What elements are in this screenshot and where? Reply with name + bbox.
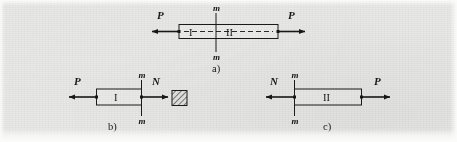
panel-b-section-label-top: m [139, 70, 146, 80]
figure-root: P P I II m m a) P N I m m b) [0, 0, 457, 142]
cross-section-symbol-group [172, 91, 187, 106]
panel-a-part-right-label: II [226, 27, 233, 38]
panel-c-right-force-label: P [374, 75, 381, 87]
panel-b-bar [97, 89, 142, 105]
panel-c-section-label-top: m [292, 70, 299, 80]
panel-c: N P II m m c) [266, 70, 390, 133]
panel-b-part-label: I [114, 92, 118, 103]
panel-c-left-force-label: N [269, 75, 279, 87]
panel-b: P N I m m b) [69, 70, 168, 133]
panel-a-left-force-label: P [157, 9, 164, 21]
panel-b-left-force-label: P [74, 75, 81, 87]
panel-c-section-label-bottom: m [292, 116, 299, 126]
panel-b-caption: b) [108, 121, 117, 133]
hatched-cross-section-icon [172, 91, 187, 106]
panel-a-section-label-top: m [213, 3, 220, 13]
panel-a: P P I II m m a) [152, 3, 305, 75]
panel-a-right-force-label: P [288, 9, 295, 21]
figure-svg: P P I II m m a) P N I m m b) [0, 0, 457, 142]
panel-c-part-label: II [323, 92, 330, 103]
panel-b-right-force-label: N [151, 75, 161, 87]
panel-a-caption: a) [212, 63, 221, 75]
panel-a-part-left-label: I [189, 27, 193, 38]
panel-a-section-label-bottom: m [213, 52, 220, 62]
panel-c-caption: c) [323, 121, 332, 133]
panel-b-section-label-bottom: m [139, 116, 146, 126]
